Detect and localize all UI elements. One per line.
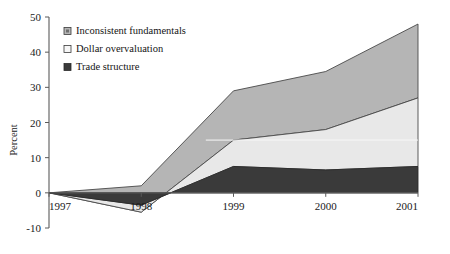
x-tick-label-2000: 2000 [315,200,338,212]
y-tick-label-50: 50 [30,11,42,23]
y-tick-label-10: 10 [30,152,42,164]
legend-swatch-icon-trade-structure [64,64,71,71]
y-tick-label-0: 0 [36,187,42,199]
legend-label-trade-structure: Trade structure [76,61,140,72]
y-tick-label--10: -10 [26,222,41,234]
y-tick-label-20: 20 [30,117,42,129]
x-tick-label-1998: 1998 [130,200,153,212]
y-axis-title: Percent [8,124,19,156]
legend-label-dollar-overvaluation: Dollar overvaluation [76,43,164,54]
legend-item-trade-structure[interactable]: Trade structure [64,61,140,72]
chart-svg: -1001020304050 19971998199920002001 Perc… [0,0,450,254]
legend-label-inconsistent-fundamentals: Inconsistent fundamentals [76,25,186,36]
x-tick-label-2001: 2001 [396,200,418,212]
x-tick-label-1997: 1997 [49,200,72,212]
x-tick-label-1999: 1999 [223,200,246,212]
legend-swatch-icon-dollar-overvaluation [64,46,71,53]
y-tick-label-30: 30 [30,81,42,93]
y-tick-label-40: 40 [30,46,42,58]
legend-item-dollar-overvaluation[interactable]: Dollar overvaluation [64,43,164,54]
stacked-area-chart: -1001020304050 19971998199920002001 Perc… [0,0,450,254]
legend-swatch-inner-icon-inconsistent-fundamentals [66,30,69,33]
legend-item-inconsistent-fundamentals[interactable]: Inconsistent fundamentals [64,25,186,36]
